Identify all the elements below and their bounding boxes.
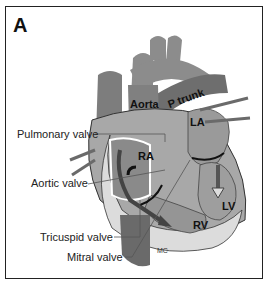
label-mc: MC: [157, 247, 168, 254]
callout-tricuspid-valve: Tricuspid valve: [40, 231, 113, 243]
callout-mitral-valve: Mitral valve: [67, 251, 123, 263]
label-aorta: Aorta: [130, 98, 159, 110]
callout-pulmonary-valve: Pulmonary valve: [17, 128, 98, 140]
label-left-ventricle: LV: [222, 200, 235, 212]
label-right-ventricle: RV: [193, 219, 208, 231]
label-left-atrium: LA: [190, 116, 205, 128]
label-right-atrium: RA: [138, 150, 154, 162]
callout-aortic-valve: Aortic valve: [31, 177, 88, 189]
heart-illustration: [0, 0, 273, 288]
panel-label: A: [13, 14, 27, 37]
